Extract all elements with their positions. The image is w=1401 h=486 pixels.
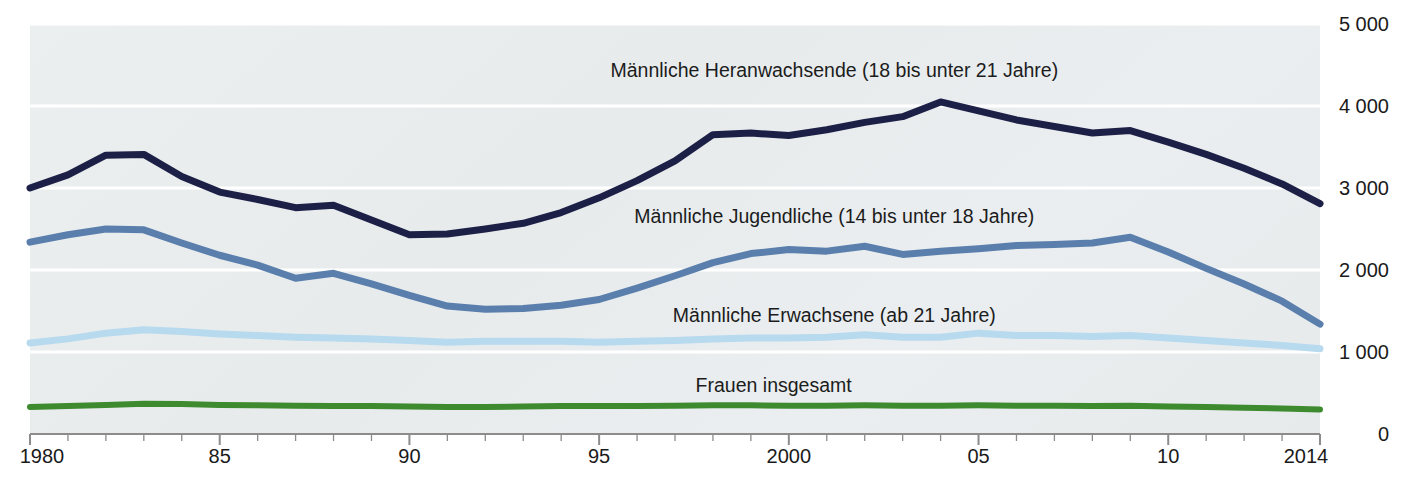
x-tick-label: 90 bbox=[398, 446, 420, 466]
x-tick-label: 2000 bbox=[767, 446, 812, 466]
x-tick-label: 85 bbox=[209, 446, 231, 466]
series-label: Männliche Erwachsene (ab 21 Jahre) bbox=[673, 306, 996, 326]
x-tick-label: 10 bbox=[1157, 446, 1179, 466]
x-tick-label: 2014 bbox=[1284, 446, 1329, 466]
series-label: Männliche Heranwachsende (18 bis unter 2… bbox=[611, 61, 1059, 81]
line-chart: 5 0004 0003 0002 0001 0000 1980859095200… bbox=[0, 0, 1401, 486]
series-label: Frauen insgesamt bbox=[696, 376, 852, 396]
series-label: Männliche Jugendliche (14 bis unter 18 J… bbox=[634, 207, 1034, 227]
x-tick-label: 05 bbox=[967, 446, 989, 466]
x-tick-label: 95 bbox=[588, 446, 610, 466]
x-tick-label: 1980 bbox=[20, 446, 65, 466]
